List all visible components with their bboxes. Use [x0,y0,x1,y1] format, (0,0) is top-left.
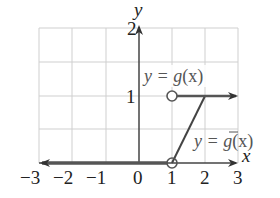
x-tick: 2 [200,167,210,188]
x-tick: 0 [133,167,143,188]
g-label: y = g(x) [142,65,220,87]
x-tick-labels: −3 −2 −1 0 1 2 3 [20,167,243,188]
y-tick-1: 1 [126,86,136,107]
x-tick: 1 [167,167,177,188]
gbar-label: y = g(x) [192,131,253,152]
open-circle-1-1 [167,91,177,101]
x-tick: 3 [233,167,243,188]
y-axis-label: y [132,0,143,20]
graph-canvas: y x 2 1 −3 −2 −1 0 1 2 3 y = g(x) y = g(… [0,0,280,198]
x-tick: −1 [86,167,106,188]
svg-text:y = g(x): y = g(x) [142,66,203,87]
y-tick-2: 2 [127,18,137,39]
x-tick: −3 [20,167,40,188]
svg-text:y = g(x): y = g(x) [192,131,253,152]
x-tick: −2 [53,167,73,188]
